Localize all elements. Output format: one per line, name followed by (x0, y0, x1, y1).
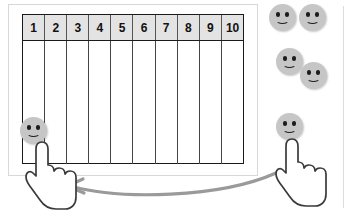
grid-header-cell-3: 3 (67, 15, 89, 40)
eye-right-icon (285, 12, 290, 17)
drag-direction-arrow (50, 168, 290, 202)
grid-header-cell-4: 4 (89, 15, 111, 40)
grid-header-cell-5: 5 (111, 15, 133, 40)
grid-header-row: 1 2 3 4 5 6 7 8 9 10 (23, 15, 243, 41)
grid-header-cell-6: 6 (133, 15, 155, 40)
smile-icon (307, 75, 320, 82)
hand-cursor-right[interactable] (275, 133, 333, 211)
grid-header-cell-9: 9 (200, 15, 222, 40)
smiley-token-pool-1[interactable] (269, 4, 296, 31)
smile-icon (283, 126, 296, 133)
grid-cell-column-9[interactable] (200, 41, 222, 164)
diagram-canvas: 1 2 3 4 5 6 7 8 9 10 (0, 0, 352, 214)
grid-header-cell-10: 10 (222, 15, 243, 40)
hand-cursor-left[interactable] (25, 136, 83, 214)
grid-cell-column-8[interactable] (178, 41, 200, 164)
smiley-token-pool-4[interactable] (300, 62, 327, 89)
eye-right-icon (315, 12, 320, 17)
grid-cell-column-5[interactable] (111, 41, 133, 164)
grid-cell-column-4[interactable] (89, 41, 111, 164)
eye-left-icon (276, 12, 281, 17)
grid-header-cell-7: 7 (156, 15, 178, 40)
grid-header-cell-1: 1 (23, 15, 45, 40)
eye-left-icon (307, 70, 312, 75)
smiley-token-pool-3[interactable] (276, 48, 303, 75)
grid-header-cell-8: 8 (178, 15, 200, 40)
eye-left-icon (283, 56, 288, 61)
grid-cell-column-6[interactable] (133, 41, 155, 164)
eye-left-icon (283, 121, 288, 126)
panel-divider-line (343, 6, 344, 208)
eye-left-icon (306, 12, 311, 17)
eye-right-icon (36, 125, 41, 130)
grid-cell-column-7[interactable] (156, 41, 178, 164)
grid-header-cell-2: 2 (45, 15, 67, 40)
eye-right-icon (292, 56, 297, 61)
smile-icon (306, 17, 319, 24)
smile-icon (276, 17, 289, 24)
smile-icon (283, 61, 296, 68)
grid-cell-column-10[interactable] (222, 41, 243, 164)
smiley-token-pool-2[interactable] (299, 4, 326, 31)
eye-right-icon (316, 70, 321, 75)
eye-left-icon (27, 125, 32, 130)
eye-right-icon (292, 121, 297, 126)
